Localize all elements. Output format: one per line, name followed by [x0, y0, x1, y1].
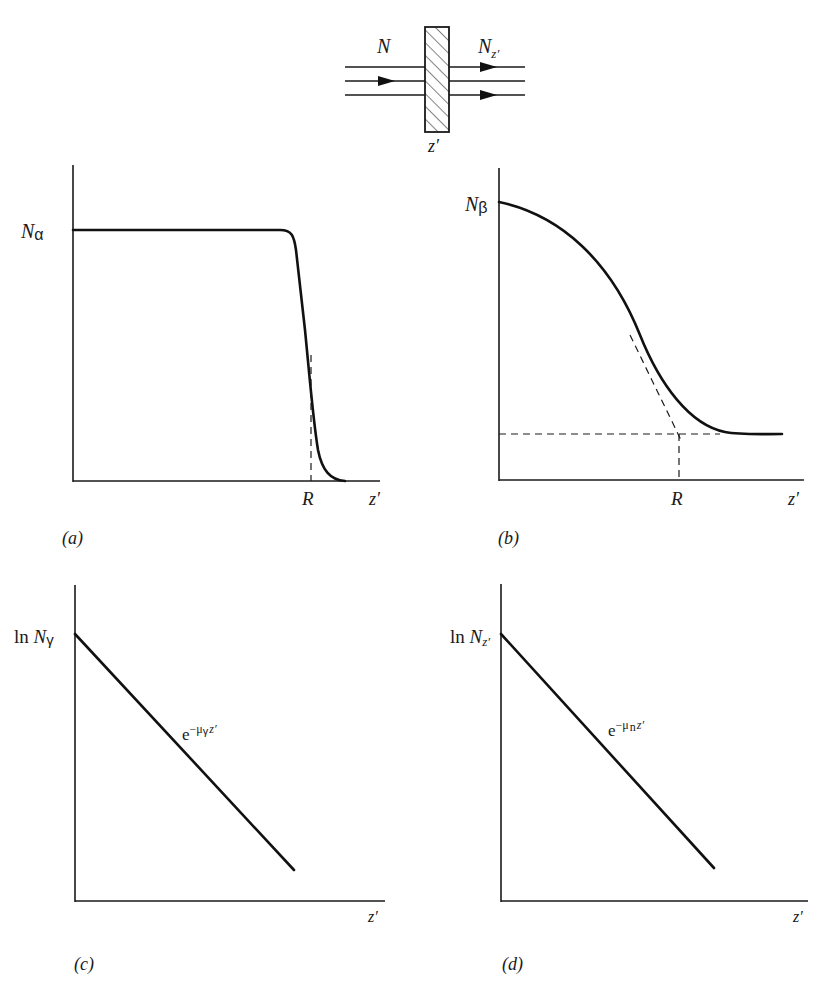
panel-caption: (a): [62, 528, 83, 549]
absorber-inset: N Nz′ z′: [345, 27, 525, 156]
arrow-right-icon: [480, 90, 497, 100]
panel-d: ln Nz′ e−μnz′ z′ (d): [450, 584, 808, 975]
tangent-extrapolation-line: [630, 335, 681, 440]
arrow-right-icon: [480, 62, 497, 72]
absorber-thickness-label: z′: [427, 136, 440, 156]
transmitted-beam-label: Nz′: [477, 35, 499, 61]
panel-caption: (d): [502, 954, 523, 975]
x-axis-label: z′: [367, 908, 378, 925]
neutron-attenuation-line: [501, 634, 714, 868]
panel-a: Nα R z′ (a): [20, 165, 381, 549]
beta-transmission-curve: [499, 202, 782, 434]
arrow-right-icon: [378, 76, 395, 86]
attenuation-formula: e−μγz′: [182, 722, 217, 744]
y-axis-label: ln Nγ: [14, 626, 54, 648]
panel-c: ln Nγ e−μγz′ z′ (c): [14, 585, 385, 975]
panel-caption: (c): [74, 954, 94, 975]
x-axis-label: z′: [792, 908, 803, 925]
x-axis-label: z′: [787, 489, 800, 509]
y-axis-label: ln Nz′: [450, 626, 490, 649]
attenuation-figure: N Nz′ z′ Nα R z′ (a): [0, 0, 830, 991]
transmitted-beam-lines: [449, 62, 525, 100]
range-label: R: [670, 488, 683, 509]
incident-beam-label: N: [376, 35, 392, 57]
incident-beam-lines: [345, 67, 425, 95]
y-axis-label: Nβ: [464, 193, 488, 216]
panel-caption: (b): [498, 528, 519, 549]
gamma-attenuation-line: [75, 634, 294, 870]
alpha-transmission-curve: [73, 230, 345, 481]
x-axis-label: z′: [368, 489, 381, 509]
panel-b: Nβ R z′ (b): [464, 168, 804, 549]
attenuation-formula: e−μnz′: [608, 718, 644, 740]
absorber-slab: [425, 27, 449, 132]
y-axis-label: Nα: [20, 220, 44, 243]
range-label: R: [301, 488, 314, 509]
